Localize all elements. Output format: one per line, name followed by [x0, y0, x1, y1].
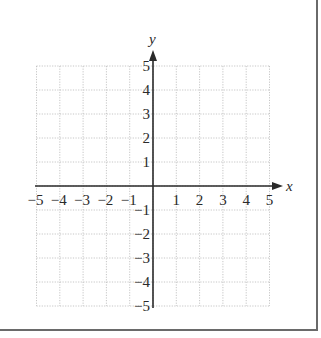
x-tick-label: 2 [196, 192, 204, 208]
x-tick-label: −4 [51, 192, 67, 208]
x-tick-label: −5 [28, 192, 44, 208]
x-tick-label: 4 [242, 192, 250, 208]
y-tick-label: 4 [143, 82, 151, 98]
y-tick-label: 3 [143, 106, 151, 122]
y-tick-label: −2 [134, 226, 150, 242]
y-tick-label: −3 [134, 250, 150, 266]
x-axis-arrow-icon [272, 182, 283, 190]
y-tick-label: 2 [143, 130, 151, 146]
x-tick-label: −2 [97, 192, 113, 208]
x-tick-label: −3 [74, 192, 90, 208]
x-tick-label: 1 [173, 192, 181, 208]
y-tick-label: −4 [134, 274, 150, 290]
y-tick-label: 1 [143, 154, 151, 170]
axes: x y [35, 31, 293, 308]
x-tick-label: 3 [219, 192, 227, 208]
y-tick-label: 5 [143, 58, 151, 74]
x-tick-labels: −5−4−3−2−112345 [28, 192, 274, 208]
coordinate-plane: x y −5−4−3−2−112345 54321−1−2−3−4−5 [0, 0, 321, 338]
y-tick-label: −1 [134, 202, 150, 218]
y-axis-arrow-icon [149, 50, 157, 61]
y-axis-label: y [147, 31, 156, 47]
x-tick-label: 5 [266, 192, 274, 208]
x-axis-label: x [285, 178, 293, 194]
y-tick-label: −5 [134, 298, 150, 314]
